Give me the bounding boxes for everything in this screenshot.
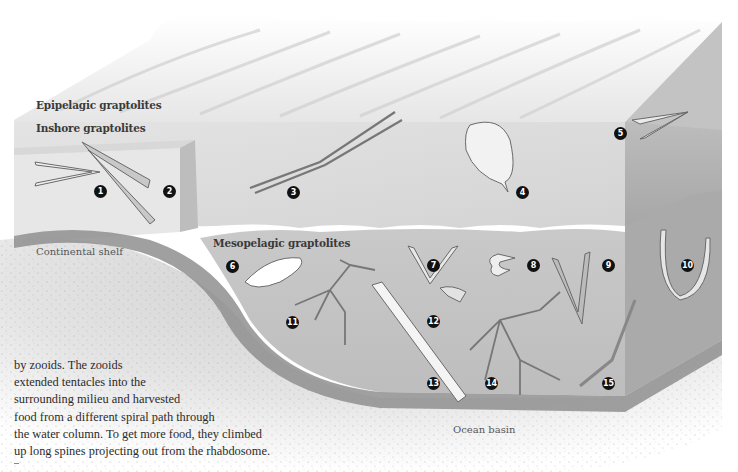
body-text-line: food from a different spiral path throug… (14, 409, 270, 426)
specimen-badge-1: 1 (94, 185, 107, 198)
specimen-badge-11: 11 (286, 316, 299, 329)
continental-shelf-label: Continental shelf (36, 246, 123, 257)
specimen-badge-15: 15 (602, 377, 615, 390)
specimen-badge-2: 2 (163, 185, 176, 198)
body-text-line: the water column. To get more food, they… (14, 426, 270, 443)
body-text-line: up long spines projecting out from the r… (14, 443, 270, 460)
inshore-zone-label: Inshore graptolites (36, 122, 145, 134)
specimen-badge-12: 12 (427, 315, 440, 328)
body-text-line: surrounding milieu and harvested (14, 391, 270, 408)
specimen-badge-6: 6 (226, 260, 239, 273)
specimen-badge-10: 10 (681, 259, 694, 272)
mesopelagic-zone-label: Mesopelagic graptolites (213, 237, 350, 249)
ocean-basin-label: Ocean basin (453, 424, 515, 435)
specimen-badge-14: 14 (485, 377, 498, 390)
body-text-line: extended tentacles into the (14, 374, 270, 391)
specimen-badge-4: 4 (516, 186, 529, 199)
graptolite-illustration: Epipelagic graptolites Inshore graptolit… (0, 0, 738, 472)
epipelagic-zone-label: Epipelagic graptolites (36, 99, 161, 111)
specimen-badge-8: 8 (527, 259, 540, 272)
specimen-badge-7: 7 (427, 259, 440, 272)
specimen-badge-13: 13 (427, 377, 440, 390)
specimen-badge-3: 3 (287, 186, 300, 199)
body-text: by zooids. The zooids extended tentacles… (14, 357, 270, 460)
specimen-badge-5: 5 (614, 127, 627, 140)
specimen-badge-9: 9 (602, 259, 615, 272)
body-text-line: by zooids. The zooids (14, 357, 270, 374)
page-mark (14, 463, 19, 464)
